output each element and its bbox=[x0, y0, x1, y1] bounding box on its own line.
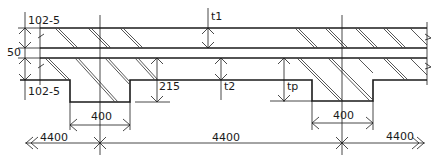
label-t1: t1 bbox=[211, 11, 222, 22]
label-rib-width-right: 400 bbox=[333, 110, 354, 121]
label-rib-depth: 215 bbox=[159, 81, 180, 92]
label-t2: t2 bbox=[224, 81, 235, 92]
label-span-left: 4400 bbox=[40, 132, 68, 143]
dim-rib-widths bbox=[70, 101, 373, 131]
dim-t2 bbox=[215, 58, 227, 100]
label-span-right: 4400 bbox=[386, 131, 414, 142]
label-tp: tp bbox=[287, 81, 298, 92]
hatching-top bbox=[55, 28, 427, 48]
label-bottom-slab-thickness: 102-5 bbox=[28, 86, 60, 97]
break-marks bbox=[38, 22, 431, 85]
label-rib-width-left: 400 bbox=[91, 111, 112, 122]
drawing-canvas: 102-5 50 102-5 t1 215 t2 tp 400 400 4400… bbox=[0, 0, 442, 160]
label-gap: 50 bbox=[7, 47, 21, 58]
label-span-middle: 4400 bbox=[212, 132, 240, 143]
label-top-slab-thickness: 102-5 bbox=[28, 15, 60, 26]
